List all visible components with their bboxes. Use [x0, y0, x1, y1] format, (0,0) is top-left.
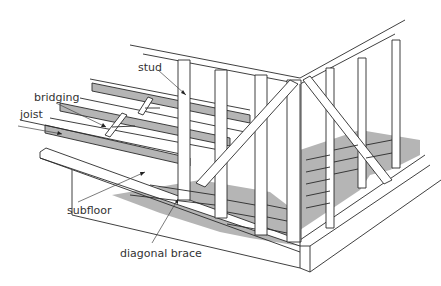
label-diagonal-brace: diagonal brace [120, 248, 202, 259]
diagonal-brace-left [196, 80, 298, 187]
stud-3 [255, 75, 267, 235]
label-joist: joist [20, 109, 43, 120]
framing-diagram [0, 0, 441, 286]
label-stud: stud [138, 62, 162, 73]
corner-post [287, 80, 301, 242]
stud-r2 [358, 58, 366, 188]
stud-2 [215, 70, 227, 218]
label-bridging: bridging [34, 92, 80, 103]
label-subfloor: subfloor [67, 205, 112, 216]
stud-1 [178, 60, 190, 200]
rim-joist-front [300, 246, 310, 272]
stud-r3 [392, 40, 400, 168]
